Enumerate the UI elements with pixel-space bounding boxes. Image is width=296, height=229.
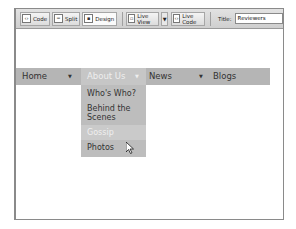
nav-item-label: Blogs [213,71,236,81]
title-label: Title: [218,16,232,22]
nav-item-label: About Us [87,71,125,81]
split-view-button[interactable]: ═ Split [52,12,80,26]
submenu-item-photos[interactable]: Photos [81,140,146,157]
document-toolbar: ‹› Code ═ Split ▪ Design ▫ Live View ▼ ‹… [16,9,283,29]
title-input[interactable]: Reviewers [235,13,283,24]
nav-item-home[interactable]: Home ▼ [16,68,81,85]
chevron-down-icon: ▼ [135,68,139,85]
code-view-icon: ‹› [22,14,31,23]
submenu-item-whos-who[interactable]: Who's Who? [81,85,146,101]
code-view-label: Code [33,16,47,22]
about-us-submenu: Who's Who? Behind the Scenes Gossip Phot… [81,85,146,157]
mouse-cursor-icon [126,139,134,158]
design-view-label: Design [95,16,114,22]
live-view-button[interactable]: ▫ Live View [126,12,159,26]
design-view-icon: ▪ [84,14,93,23]
nav-item-blogs[interactable]: Blogs [209,68,270,85]
split-view-label: Split [65,16,77,22]
live-code-button[interactable]: ‹› Live Code [171,12,205,26]
nav-item-news[interactable]: News ▼ [146,68,209,85]
toolbar-separator [210,12,211,26]
design-view-button[interactable]: ▪ Design [82,12,117,26]
submenu-item-gossip[interactable]: Gossip [81,125,146,140]
nav-item-about-us[interactable]: About Us ▼ [81,68,146,85]
split-view-icon: ═ [54,14,63,23]
live-code-icon: ‹› [173,14,180,23]
live-code-label: Live Code [182,13,202,25]
nav-item-label: News [149,71,172,81]
live-view-options-dropdown[interactable]: ▼ [161,12,168,26]
live-view-icon: ▫ [128,14,135,23]
chevron-down-icon: ▼ [199,68,203,85]
live-view-label: Live View [137,13,156,25]
menu-bar: Home ▼ About Us ▼ News ▼ Blogs [16,68,270,85]
toolbar-separator [122,12,123,26]
document-window: ‹› Code ═ Split ▪ Design ▫ Live View ▼ ‹… [14,8,284,220]
code-view-button[interactable]: ‹› Code [20,12,50,26]
chevron-down-icon: ▼ [68,68,72,85]
nav-item-label: Home [22,71,47,81]
submenu-item-behind-the-scenes[interactable]: Behind the Scenes [81,101,146,125]
